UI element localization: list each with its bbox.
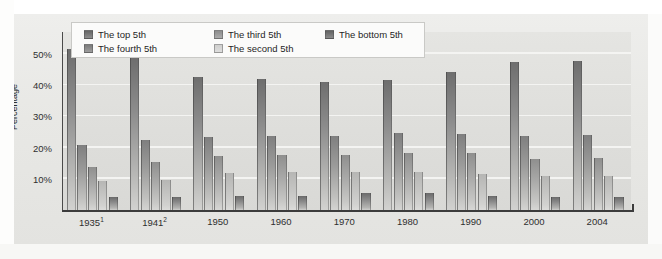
bar [425,193,434,210]
bar-group [257,32,308,210]
bar [583,135,592,210]
bar [235,196,244,210]
bar [414,172,423,210]
bar [351,172,360,210]
bar [88,167,97,210]
bar [288,172,297,210]
legend-item[interactable]: The top 5th [84,29,146,40]
bar [161,180,170,210]
x-tick-label: 1990 [460,216,481,227]
bar [130,58,139,210]
x-tick-label: 1970 [334,216,355,227]
scanned-page: Historical Distribution of the Income of… [0,0,662,259]
bar [214,156,223,210]
bar [478,174,487,210]
bar-group [383,32,434,210]
legend-label: The second 5th [228,43,294,54]
legend-item[interactable]: The bottom 5th [325,29,403,40]
bar [394,133,403,210]
x-tick-label: 2000 [523,216,544,227]
bar [614,197,623,210]
y-tick-label: 20% [33,142,52,153]
bar-group [573,32,624,210]
bar [457,134,466,210]
legend-swatch-icon [214,30,223,39]
bar [320,82,329,210]
bar [67,49,76,210]
bar-group [510,32,561,210]
bar [446,72,455,210]
bar [551,197,560,210]
bar [151,162,160,210]
bar [172,197,181,210]
x-axis-line [62,210,634,212]
x-axis-end-tick [632,204,634,211]
x-tick-label: 19351 [79,216,104,228]
chart-legend: The top 5thThe fourth 5thThe third 5thTh… [71,22,425,58]
bar [141,140,150,210]
bar [510,62,519,210]
bar [541,176,550,210]
bar [77,145,86,210]
legend-label: The top 5th [98,29,146,40]
x-tick-label: 2004 [587,216,608,227]
legend-item[interactable]: The second 5th [214,43,294,54]
bar [530,159,539,210]
legend-swatch-icon [214,44,223,53]
y-tick-label: 50% [33,48,52,59]
bar-group [446,32,497,210]
x-tick-label: 1950 [207,216,228,227]
legend-swatch-icon [84,44,93,53]
page-margin-top [0,0,662,14]
bar [204,137,213,210]
bar [225,173,234,210]
legend-item[interactable]: The fourth 5th [84,43,157,54]
bar [404,153,413,210]
y-axis-ticks: 10%20%30%40%50% [14,32,58,210]
bar-group [193,32,244,210]
legend-item[interactable]: The third 5th [214,29,281,40]
bar [467,153,476,210]
y-tick-label: 10% [33,173,52,184]
y-tick-label: 30% [33,111,52,122]
bar [267,136,276,210]
bar [488,196,497,210]
bar-group [67,32,118,210]
legend-label: The bottom 5th [339,29,403,40]
bar [109,197,118,210]
bar [277,155,286,210]
bar [257,79,266,210]
x-tick-label: 1960 [270,216,291,227]
bar-group [130,32,181,210]
legend-label: The third 5th [228,29,281,40]
x-tick-label: 1980 [397,216,418,227]
legend-swatch-icon [325,30,334,39]
legend-label: The fourth 5th [98,43,157,54]
page-margin-left [0,0,14,259]
bar [520,136,529,210]
x-tick-label: 19412 [142,216,167,228]
legend-swatch-icon [84,30,93,39]
bar [361,193,370,210]
page-margin-bottom [0,244,662,259]
bar [330,136,339,210]
bar-chart: Historical Distribution of the Income of… [14,14,648,245]
y-tick-label: 40% [33,80,52,91]
bar [594,158,603,210]
bar [298,196,307,210]
bar [573,61,582,210]
bar [98,181,107,210]
plot-area [62,32,631,210]
bar-group [320,32,371,210]
bar [193,77,202,210]
bar [604,176,613,210]
bar [383,80,392,210]
bar [341,155,350,210]
x-axis-ticks: 19351194121950196019701980199020002004 [62,214,634,238]
